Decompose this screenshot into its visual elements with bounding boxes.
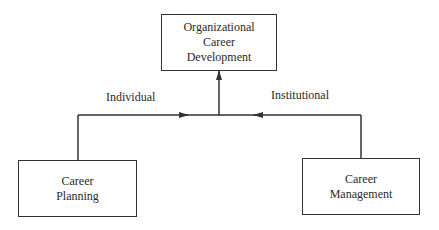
career-management-box: Career Management (302, 158, 420, 215)
top-box-line-1: Organizational (183, 20, 254, 35)
top-box-line-3: Development (187, 50, 252, 65)
institutional-label: Institutional (271, 88, 329, 103)
left-box-line-1: Career (62, 174, 94, 189)
left-box-line-2: Planning (56, 189, 99, 204)
right-box-line-2: Management (330, 187, 393, 202)
organizational-career-development-box: Organizational Career Development (161, 14, 277, 71)
career-planning-box: Career Planning (18, 160, 137, 217)
top-box-line-2: Career (203, 35, 235, 50)
individual-label: Individual (106, 90, 155, 105)
right-box-line-1: Career (345, 172, 377, 187)
